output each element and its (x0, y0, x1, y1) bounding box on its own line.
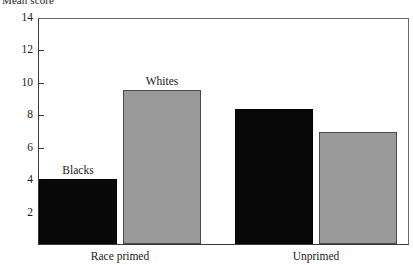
series-annotation-label: Whites (146, 75, 179, 87)
y-axis-labels: 1412108642 (0, 0, 33, 265)
series-annotation-label: Blacks (62, 164, 93, 176)
x-axis-category-label: Race primed (91, 250, 149, 263)
y-axis-tick-label: 8 (1, 110, 33, 122)
y-axis-tick-label: 14 (1, 12, 33, 24)
y-axis-tick-label: 10 (1, 77, 33, 89)
x-axis-category-label: Unprimed (293, 250, 340, 263)
bar (123, 90, 201, 244)
bar (39, 179, 117, 244)
y-axis-tick-label: 4 (1, 174, 33, 186)
y-axis-tick-label: 12 (1, 45, 33, 57)
bars-container (39, 18, 409, 244)
bar (235, 109, 313, 244)
y-axis-tick-label: 6 (1, 142, 33, 154)
bar-chart-figure: Mean score 1412108642 BlacksWhites Race … (0, 0, 413, 265)
y-axis-tick-label: 2 (1, 207, 33, 219)
bar (319, 132, 397, 244)
